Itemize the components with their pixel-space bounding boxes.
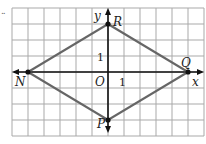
point-label-p: P [96,117,106,131]
point-label-r: R [112,15,122,29]
y-axis-arrow-down-icon [105,126,111,133]
point-n [25,69,30,74]
y-axis-arrow-up-icon [105,8,111,15]
origin-label: O [95,75,105,89]
coordinate-plane-diagram: y x O 1 1 R Q P N [0,0,206,144]
y-tick-1-label: 1 [97,51,104,64]
x-tick-1-label: 1 [119,76,126,89]
y-axis-label: y [93,9,101,23]
point-q [185,69,190,74]
point-label-q: Q [181,56,191,70]
point-p [105,117,110,122]
axes [12,8,204,133]
x-axis-label: x [192,75,199,89]
point-label-n: N [14,75,26,89]
point-r [105,21,110,26]
